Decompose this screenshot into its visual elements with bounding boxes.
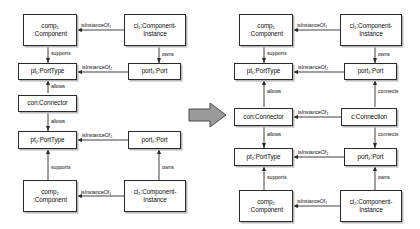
node-con-right[interactable]: con:Connector <box>234 108 293 126</box>
edge-label-connects-right-top: connects <box>378 88 398 94</box>
edge-label-owns-left-bottom: owns <box>162 164 174 170</box>
edge-label-allows-left-bottom: allows <box>51 118 65 124</box>
edge-label-isinstanceof1-right-top: isInstanceOf₁ <box>297 22 327 28</box>
edge-label-owns-right-top: owns <box>378 51 390 57</box>
edge-label-allows-right-bottom: allows <box>267 131 281 137</box>
edge-label-isinstanceof1-right-bottom: isInstanceOf₁ <box>297 198 327 204</box>
node-port2-left[interactable]: port₂:Port <box>128 131 181 149</box>
edge-label-isinstanceof2-left-top: isInstanceOf₂ <box>82 64 112 70</box>
edge-label-isinstanceof1-left: isInstanceOf₁ <box>81 22 111 28</box>
node-connection-right[interactable]: c:Connection <box>341 108 397 126</box>
edge-label-isinstanceof2-right-top: isInstanceOf₂ <box>298 64 328 70</box>
node-port1-left[interactable]: port₁:Port <box>128 63 181 80</box>
node-pt2-left[interactable]: pt₂:PortType <box>18 131 77 149</box>
node-ci2-left[interactable]: ci₂:Component- Instance <box>124 180 186 212</box>
edge-label-isinstanceof1-left-bottom: isInstanceOf₁ <box>81 189 111 195</box>
edge-label-isinstanceof2-right-bottom: isInstanceOf₂ <box>298 149 328 155</box>
node-pt1-right[interactable]: pt₁:PortType <box>234 63 293 80</box>
edge-label-isinstanceof3-right: isInstanceOf₃ <box>298 109 328 115</box>
edge-label-supports-right-top: supports <box>267 50 287 56</box>
node-comp2-right[interactable]: comp₂ :Component <box>239 190 293 222</box>
node-comp1-left[interactable]: comp₁ :Component <box>23 14 77 46</box>
edge-label-owns-left-top: owns <box>162 51 174 57</box>
diagram-canvas: comp₁ :Component ci₁:Component- Instance… <box>0 0 420 229</box>
node-pt2-right[interactable]: pt₂:PortType <box>234 148 293 166</box>
node-ci1-left[interactable]: ci₁:Component- Instance <box>124 14 186 46</box>
node-ci2-right[interactable]: ci₂:Component- Instance <box>340 190 402 222</box>
node-comp2-left[interactable]: comp₂ :Component <box>23 180 77 212</box>
node-port1-right[interactable]: port₁:Port <box>344 63 397 80</box>
node-con-left[interactable]: con:Connector <box>18 95 77 112</box>
transform-arrow-icon <box>188 101 228 129</box>
edge-label-allows-left-top: allows <box>51 83 65 89</box>
node-pt1-left[interactable]: pt₁:PortType <box>18 63 77 80</box>
edge-label-connects-right-bottom: connects <box>378 131 398 137</box>
node-port2-right[interactable]: port₂:Port <box>344 148 397 166</box>
edge-label-isinstanceof2-left-bottom: isInstanceOf₂ <box>82 132 112 138</box>
edge-label-supports-left-top: supports <box>51 50 71 56</box>
node-comp1-right[interactable]: comp₁ :Component <box>239 14 293 46</box>
edge-label-owns-right-bottom: owns <box>378 174 390 180</box>
edge-label-supports-left-bottom: supports <box>51 164 71 170</box>
edge-label-supports-right-bottom: supports <box>267 174 287 180</box>
edge-label-allows-right-top: allows <box>267 88 281 94</box>
node-ci1-right[interactable]: ci₁:Component- Instance <box>340 14 402 46</box>
